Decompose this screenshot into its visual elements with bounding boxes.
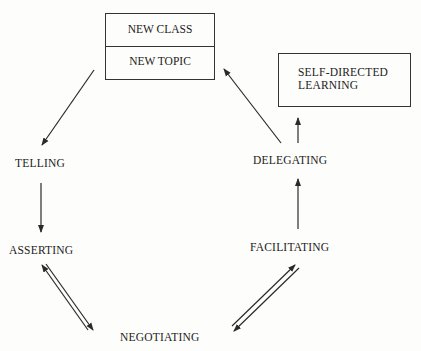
stage-facilitating: FACILITATING — [250, 241, 329, 253]
arrow-negotiating-to-asserting — [42, 265, 88, 330]
arrow-facilitating-to-negotiating — [234, 268, 299, 331]
arrow-delegating-to-start — [224, 69, 281, 143]
self-directed-box: SELF-DIRECTED LEARNING — [278, 53, 411, 107]
stage-asserting: ASSERTING — [9, 244, 73, 256]
self-directed-line2: LEARNING — [298, 79, 358, 91]
self-directed-line1: SELF-DIRECTED — [298, 66, 388, 78]
stage-negotiating: NEGOTIATING — [120, 331, 200, 343]
arrow-start-to-telling — [42, 70, 94, 145]
start-box-divider — [106, 46, 214, 47]
stage-delegating: DELEGATING — [253, 154, 327, 166]
arrow-negotiating-to-facilitating — [232, 265, 295, 326]
start-box: NEW CLASS NEW TOPIC — [105, 13, 215, 80]
stage-telling: TELLING — [15, 157, 65, 169]
arrow-asserting-to-negotiating — [46, 264, 93, 330]
start-box-new-class: NEW CLASS — [106, 23, 214, 35]
start-box-new-topic: NEW TOPIC — [106, 55, 214, 67]
